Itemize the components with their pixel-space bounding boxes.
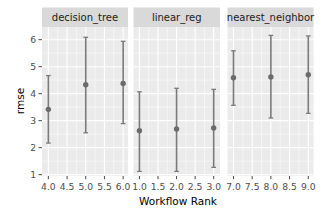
- faceted-chart: 123456 decision_tree4.04.55.05.56.0linea…: [0, 0, 328, 220]
- data-point: [46, 107, 51, 112]
- y-tick-label: 4: [30, 88, 36, 99]
- data-point: [306, 72, 311, 77]
- data-point: [268, 74, 273, 79]
- x-tick-label: 4.5: [60, 181, 75, 192]
- x-tick-label: 9.0: [301, 181, 316, 192]
- x-tick-label: 7.0: [226, 181, 241, 192]
- facet-panel-decision-tree: decision_tree4.04.55.05.56.0: [41, 8, 131, 192]
- y-tick-label: 5: [30, 61, 36, 72]
- facet-panel-nearest-neighbor: nearest_neighbor7.07.58.08.59.0: [226, 8, 316, 192]
- data-point: [231, 75, 236, 80]
- x-tick-label: 7.5: [245, 181, 260, 192]
- x-tick-label: 5.0: [78, 181, 93, 192]
- y-tick-label: 2: [30, 142, 36, 153]
- x-tick-label: 8.0: [264, 181, 279, 192]
- x-tick-label: 2.5: [188, 181, 203, 192]
- x-tick-label: 1.0: [132, 181, 147, 192]
- x-tick-label: 8.5: [282, 181, 297, 192]
- x-tick-label: 2.0: [169, 181, 184, 192]
- x-tick-label: 1.5: [151, 181, 166, 192]
- facet-strip-label: nearest_neighbor: [227, 12, 315, 24]
- x-tick-label: 3.0: [206, 181, 221, 192]
- x-tick-label: 4.0: [41, 181, 56, 192]
- data-point: [174, 126, 179, 131]
- y-axis: 123456: [30, 34, 42, 180]
- facet-panel-linear-reg: linear_reg1.01.52.02.53.0: [132, 8, 221, 192]
- x-tick-label: 5.5: [97, 181, 112, 192]
- facet-strip-label: linear_reg: [152, 12, 202, 24]
- y-tick-label: 3: [30, 115, 36, 126]
- y-tick-label: 1: [30, 169, 36, 180]
- facet-strip-label: decision_tree: [52, 12, 118, 24]
- data-point: [137, 128, 142, 133]
- y-axis-title: rmse: [14, 88, 26, 114]
- x-axis-title: Workflow Rank: [139, 195, 218, 207]
- data-point: [83, 82, 88, 87]
- facet-panels: decision_tree4.04.55.05.56.0linear_reg1.…: [41, 8, 316, 192]
- data-point: [211, 125, 216, 130]
- data-point: [120, 81, 125, 86]
- y-tick-label: 6: [30, 34, 36, 45]
- x-tick-label: 6.0: [116, 181, 131, 192]
